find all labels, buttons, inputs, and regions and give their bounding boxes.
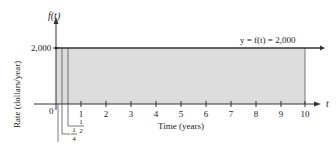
function-arrow-icon — [320, 46, 325, 51]
svg-text:10: 10 — [301, 109, 311, 119]
svg-text:6: 6 — [204, 109, 209, 119]
half-den: 2 — [79, 127, 83, 135]
svg-text:2: 2 — [104, 109, 109, 119]
svg-text:7: 7 — [229, 109, 234, 119]
quarter-den: 4 — [72, 135, 76, 143]
x-tick-labels: 1 2 3 4 5 6 7 8 9 10 — [79, 109, 310, 119]
half-num: 1 — [79, 118, 83, 126]
function-label: y = f(t) = 2,000 — [240, 35, 296, 45]
svg-text:5: 5 — [179, 109, 184, 119]
x-axis-name: t — [326, 98, 329, 109]
svg-text:9: 9 — [279, 109, 284, 119]
y-tick-dot — [55, 47, 58, 50]
svg-text:4: 4 — [154, 109, 159, 119]
shaded-area — [56, 48, 305, 104]
y-tick-label: 2,000 — [31, 43, 52, 53]
chart: f(t) t 2,000 0 y = f(t) = 2,000 Time (ye… — [0, 0, 336, 153]
svg-text:3: 3 — [129, 109, 134, 119]
x-axis-label: Time (years) — [158, 121, 204, 131]
origin-label: 0 — [49, 106, 54, 116]
svg-text:8: 8 — [254, 109, 259, 119]
y-axis-name: f(t) — [48, 10, 61, 22]
quarter-num: 1 — [72, 126, 76, 134]
y-axis-label: Rate (dollars/year) — [12, 61, 22, 128]
x-axis-arrow-icon — [314, 102, 321, 107]
